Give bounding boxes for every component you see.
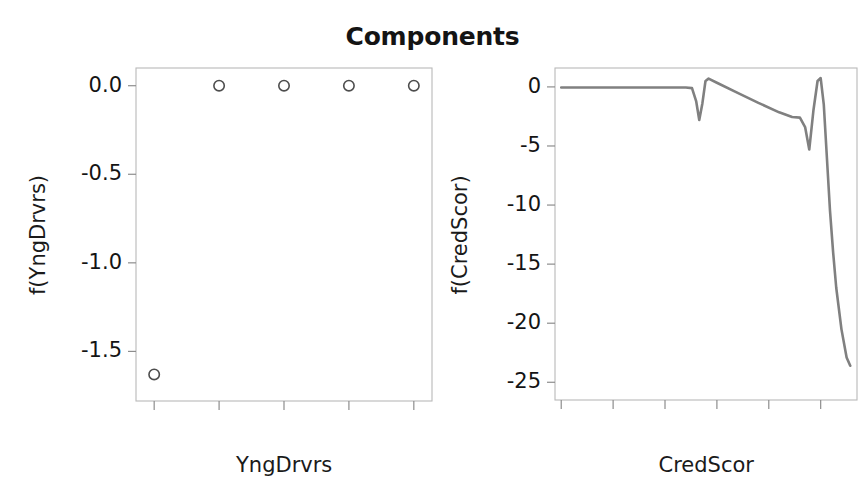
left-plot-frame — [136, 68, 432, 401]
left-x-axis-label: YngDrvrs — [236, 453, 332, 477]
svg-text:-0.5: -0.5 — [81, 161, 122, 185]
left-plot-panel: 0.0-0.5-1.0-1.501234 f(YngDrvrs) YngDrvr… — [0, 55, 460, 455]
right-x-axis-label: CredScor — [659, 453, 754, 477]
svg-text:700: 700 — [749, 413, 789, 415]
svg-text:-1.5: -1.5 — [81, 338, 122, 362]
right-plot-svg: 0-5-10-15-20-25300400500600700800 — [432, 55, 865, 415]
svg-text:-1.0: -1.0 — [81, 250, 122, 274]
svg-text:0: 0 — [147, 414, 160, 415]
svg-text:-10: -10 — [507, 192, 541, 216]
svg-text:-25: -25 — [507, 369, 541, 393]
svg-text:-15: -15 — [507, 251, 541, 275]
left-plot-svg: 0.0-0.5-1.0-1.501234 — [0, 55, 460, 415]
svg-text:3: 3 — [342, 414, 355, 415]
svg-text:600: 600 — [697, 413, 737, 415]
svg-text:0.0: 0.0 — [89, 73, 122, 97]
svg-text:300: 300 — [541, 413, 581, 415]
left-y-axis-label: f(YngDrvrs) — [26, 175, 50, 295]
svg-text:1: 1 — [212, 414, 225, 415]
svg-text:-20: -20 — [507, 310, 541, 334]
svg-text:0: 0 — [528, 74, 541, 98]
svg-text:400: 400 — [593, 413, 633, 415]
svg-text:800: 800 — [801, 413, 841, 415]
svg-text:2: 2 — [277, 414, 290, 415]
svg-text:4: 4 — [407, 414, 420, 415]
right-y-axis-label: f(CredScor) — [447, 175, 471, 294]
figure-canvas: Components 0.0-0.5-1.0-1.501234 f(YngDrv… — [0, 0, 865, 492]
right-plot-panel: 0-5-10-15-20-25300400500600700800 f(Cred… — [432, 55, 865, 455]
svg-text:500: 500 — [645, 413, 685, 415]
svg-text:-5: -5 — [520, 133, 541, 157]
figure-title: Components — [0, 22, 865, 51]
